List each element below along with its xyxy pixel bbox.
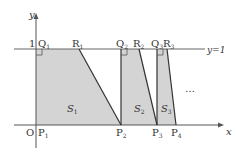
label-p3: P3: [152, 127, 163, 139]
y-axis-label: y: [28, 9, 35, 20]
label-q1: Q1: [38, 38, 50, 50]
region-s1: [36, 49, 121, 125]
label-r2: R2: [133, 38, 145, 50]
line-y1-label: y=1: [206, 45, 225, 55]
y-tick-1-label: 1: [29, 38, 35, 49]
label-q3: Q3: [151, 38, 163, 50]
x-axis-arrow-icon: [218, 123, 224, 128]
label-p2: P2: [116, 127, 127, 139]
origin-label: O: [26, 127, 34, 138]
label-q2: Q2: [116, 38, 128, 50]
label-r1: R1: [72, 38, 83, 50]
trapezoid-sequence-diagram: y x O 1 y=1 Q1 R1 Q2 R2 Q3 R3 P1 P2 P3 P…: [0, 0, 243, 156]
label-p1: P1: [38, 127, 49, 139]
label-p4: P4: [171, 127, 182, 139]
x-axis-label: x: [226, 126, 232, 137]
ellipsis-label: …: [185, 83, 195, 94]
label-r3: R3: [163, 38, 175, 50]
